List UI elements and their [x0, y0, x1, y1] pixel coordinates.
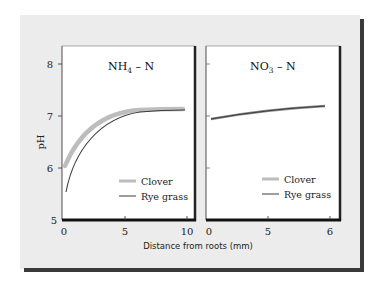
right-x-tick-5: 5 — [265, 226, 271, 237]
left-plot-title: NH4 – N — [108, 60, 154, 75]
y-tick-7: 7 — [47, 111, 53, 122]
y-tick-6: 6 — [47, 163, 53, 174]
left-x-tick-10: 10 — [181, 226, 194, 237]
legend-rye-label: Rye grass — [141, 191, 188, 202]
right-x-tick-6: 6 — [327, 226, 333, 237]
legend-clover-label-right: Clover — [284, 174, 316, 185]
legend-rye-label-right: Rye grass — [284, 189, 331, 200]
left-plot: 8 7 6 5 pH 0 5 10 NH4 – N Clover Rye gra… — [35, 46, 196, 237]
left-x-tick-0: 0 — [61, 226, 67, 237]
chart-svg: 8 7 6 5 pH 0 5 10 NH4 – N Clover Rye gra… — [0, 0, 383, 288]
x-axis-label: Distance from roots (mm) — [143, 241, 253, 251]
right-x-tick-0: 0 — [206, 226, 212, 237]
right-plot: 0 5 6 NO3 – N Clover Rye grass — [206, 46, 341, 237]
left-x-tick-5: 5 — [122, 226, 128, 237]
y-tick-8: 8 — [47, 59, 53, 70]
right-plot-title: NO3 – N — [250, 60, 296, 75]
y-axis-label: pH — [35, 134, 46, 149]
y-tick-5: 5 — [51, 215, 57, 226]
legend-clover-label: Clover — [141, 176, 173, 187]
